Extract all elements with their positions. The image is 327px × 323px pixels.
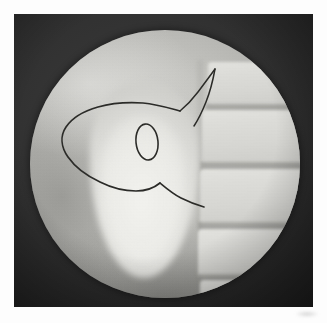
photo-panel: [14, 14, 313, 307]
fluoroscopy-field-of-view: [30, 30, 300, 298]
scanned-page: [0, 0, 327, 323]
faint-page-smudge: [296, 311, 318, 317]
fov-rim-shadow: [30, 30, 300, 298]
